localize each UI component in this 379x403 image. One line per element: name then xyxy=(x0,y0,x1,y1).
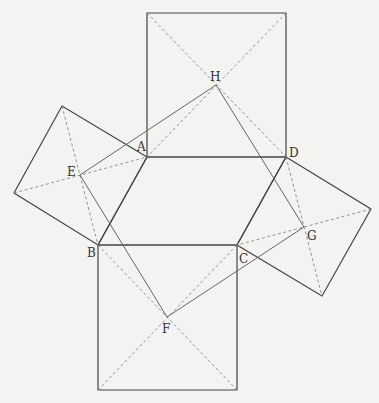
label-c: C xyxy=(239,252,248,266)
label-a: A xyxy=(136,140,146,154)
label-f: F xyxy=(162,322,170,336)
geometry-diagram: A B C D E F G H xyxy=(0,0,379,403)
label-e: E xyxy=(67,165,76,179)
square-diagonals xyxy=(14,13,371,390)
square-outlines xyxy=(14,13,371,390)
point-labels: A B C D E F G H xyxy=(67,70,317,336)
label-b: B xyxy=(87,246,96,260)
center-connectors xyxy=(80,85,304,317)
segment-he xyxy=(80,85,216,175)
label-d: D xyxy=(289,146,299,160)
label-g: G xyxy=(307,229,317,243)
label-h: H xyxy=(210,70,220,84)
segment-fg xyxy=(167,227,304,317)
parallelogram-abcd xyxy=(98,157,286,245)
